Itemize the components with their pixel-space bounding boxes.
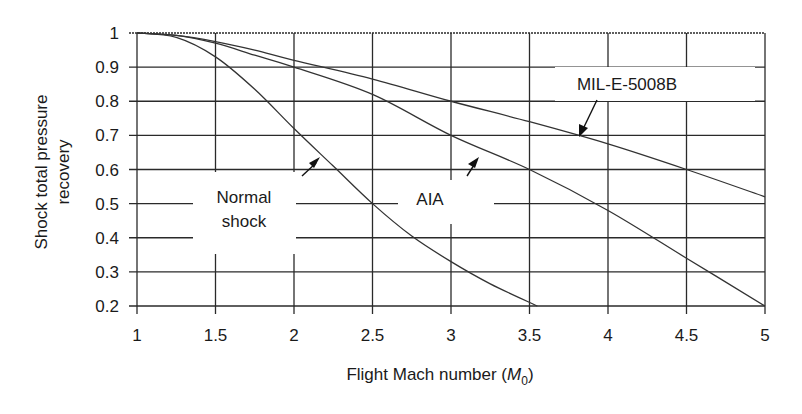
x-tick-label: 3 (446, 326, 455, 345)
y-tick-label: 0.7 (95, 126, 119, 145)
normal-shock-label-line2: shock (222, 212, 267, 231)
y-axis-title-line2: recovery (54, 139, 73, 205)
x-tick-label: 4.5 (675, 326, 699, 345)
arrow-icon (302, 157, 320, 176)
label-mask (398, 180, 494, 224)
y-tick-label: 0.2 (95, 297, 119, 316)
y-tick-label: 0.9 (95, 58, 119, 77)
y-tick-label: 0.6 (95, 161, 119, 180)
y-tick-label: 0.8 (95, 92, 119, 111)
mil-e-5008b-label: MIL-E-5008B (577, 75, 677, 94)
arrow-icon (579, 100, 597, 137)
aia-label: AIA (416, 190, 444, 209)
x-tick-label: 1 (132, 326, 141, 345)
shock-recovery-chart: 11.522.533.544.55 0.20.30.40.50.60.70.80… (0, 0, 802, 414)
x-tick-label: 2 (289, 326, 298, 345)
x-tick-label: 5 (760, 326, 769, 345)
y-tick-label: 0.4 (95, 229, 119, 248)
x-axis-title: Flight Mach number (M0) (346, 365, 533, 388)
x-tick-label: 2.5 (361, 326, 385, 345)
annotation-mil: MIL-E-5008B (577, 75, 677, 137)
y-axis-title: Shock total pressure recovery (32, 95, 73, 250)
y-tick-label: 0.3 (95, 263, 119, 282)
normal-shock-label-line1: Normal (217, 188, 272, 207)
y-axis-ticks: 0.20.30.40.50.60.70.80.91 (95, 24, 119, 316)
x-tick-label: 4 (603, 326, 612, 345)
y-axis-title-line1: Shock total pressure (32, 95, 51, 250)
x-axis-ticks: 11.522.533.544.55 (132, 326, 769, 345)
x-tick-label: 3.5 (518, 326, 542, 345)
y-tick-label: 1 (110, 24, 119, 43)
y-tick-label: 0.5 (95, 195, 119, 214)
x-tick-label: 1.5 (204, 326, 228, 345)
arrow-icon (467, 157, 479, 176)
